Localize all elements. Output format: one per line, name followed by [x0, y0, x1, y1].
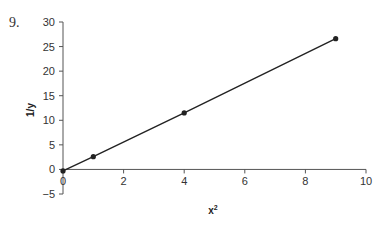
data-point-marker	[91, 154, 96, 159]
y-tick-label: −5	[42, 188, 55, 200]
y-tick-label: 5	[49, 139, 55, 151]
axes: −50510152025300246810	[42, 16, 372, 200]
line-chart: −50510152025300246810 1/y x2	[0, 0, 385, 232]
data-point-marker	[182, 110, 187, 115]
data-series	[60, 36, 338, 173]
x-tick-label: 10	[360, 175, 372, 187]
series-line	[63, 39, 336, 171]
y-tick-label: 10	[43, 114, 55, 126]
y-tick-label: 0	[49, 163, 55, 175]
y-axis-title: 1/y	[25, 103, 36, 117]
y-tick-label: 15	[43, 90, 55, 102]
x-tick-label: 8	[302, 175, 308, 187]
x-tick-label: 6	[242, 175, 248, 187]
data-point-marker	[333, 36, 338, 41]
y-tick-label: 25	[43, 41, 55, 53]
data-point-marker	[60, 168, 65, 173]
x-tick-label: 4	[181, 175, 187, 187]
x-tick-label: 0	[60, 175, 66, 187]
y-tick-label: 30	[43, 16, 55, 28]
x-axis-title: x2	[208, 204, 218, 216]
x-tick-label: 2	[121, 175, 127, 187]
y-tick-label: 20	[43, 65, 55, 77]
